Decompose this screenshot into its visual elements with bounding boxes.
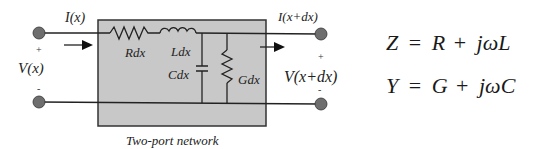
left-bottom-terminal bbox=[33, 96, 45, 108]
voltage-label-left: V(x) bbox=[18, 60, 44, 77]
eq1-term2: jωL bbox=[474, 30, 511, 55]
current-arrow-left-icon bbox=[64, 40, 93, 50]
current-label-left: I(x) bbox=[64, 10, 86, 26]
right-top-terminal bbox=[315, 28, 327, 40]
svg-text:Z = R +: Z = R + jωL bbox=[386, 30, 510, 55]
transmission-line-diagram: I(x) + V(x) - I(x+dx) + V(x+dx) - Rdx Ld… bbox=[0, 0, 546, 149]
eq2-equals: = bbox=[409, 73, 421, 98]
eq2-lhs: Y bbox=[386, 73, 401, 98]
left-top-terminal bbox=[33, 27, 45, 39]
eq1-lhs: Z bbox=[386, 30, 399, 55]
resistor-label: Rdx bbox=[124, 45, 145, 60]
eq1-term1: R bbox=[431, 30, 446, 55]
eq2-term1: G bbox=[432, 73, 448, 98]
minus-sign-right: - bbox=[318, 84, 321, 95]
inductor-label: Ldx bbox=[170, 44, 191, 59]
svg-text:Y = G +: Y = G + jωC bbox=[386, 73, 516, 98]
plus-sign-left: + bbox=[36, 44, 42, 55]
plus-sign-right: + bbox=[318, 51, 324, 62]
minus-sign-left: - bbox=[37, 83, 40, 94]
box-caption: Two-port network bbox=[126, 133, 219, 148]
capacitor-label: Cdx bbox=[168, 67, 189, 82]
right-bottom-terminal bbox=[315, 98, 327, 110]
eq1-plus: + bbox=[454, 30, 466, 55]
admittance-equation: Y = G + jωC bbox=[386, 73, 516, 98]
current-label-right: I(x+dx) bbox=[277, 9, 318, 24]
eq1-equals: = bbox=[409, 30, 421, 55]
eq2-plus: + bbox=[456, 73, 468, 98]
eq2-term2: jωC bbox=[476, 73, 516, 98]
impedance-equation: Z = R + jωL bbox=[386, 30, 510, 55]
conductance-label: Gdx bbox=[238, 72, 260, 87]
voltage-label-right: V(x+dx) bbox=[284, 68, 337, 86]
